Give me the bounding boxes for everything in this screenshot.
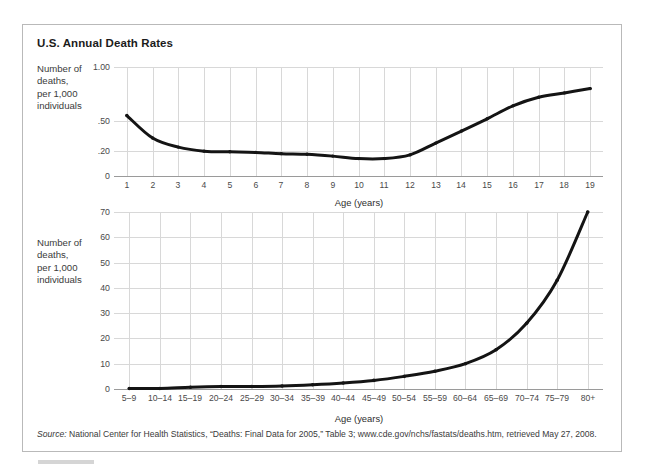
chart2-x-tick-label: 45–49 — [362, 393, 386, 403]
chart2-x-tick-label: 35–39 — [301, 393, 325, 403]
chart1-x-tick-label: 7 — [279, 180, 284, 190]
chart1-y-tick-label: 0 — [105, 171, 110, 181]
chart1-x-tick-label: 4 — [202, 180, 207, 190]
chart1-x-tick-label: 2 — [151, 180, 156, 190]
chart1-x-tick-label: 14 — [456, 180, 466, 190]
chart2-y-tick-label: 70 — [100, 207, 110, 217]
chart1-y-tick-label: .50 — [98, 116, 110, 126]
chart2-x-tick-label: 55–59 — [423, 393, 447, 403]
chart2-x-tick-label: 50–54 — [392, 393, 416, 403]
chart2-x-tick-label: 70–74 — [515, 393, 539, 403]
chart2-y-tick-label: 0 — [105, 384, 110, 394]
figure-panel: U.S. Annual Death Rates Number of deaths… — [22, 24, 622, 452]
chart1-x-tick-label: 16 — [508, 180, 518, 190]
source-body: National Center for Health Statistics, “… — [67, 429, 597, 439]
chart2-y-tick-label: 60 — [100, 232, 110, 242]
chart1-x-tick-label: 1 — [125, 180, 130, 190]
source-label: Source: — [37, 429, 67, 439]
chart1-x-axis-title: Age (years) — [259, 197, 459, 208]
chart1-x-tick-label: 3 — [176, 180, 181, 190]
chart2-y-tick-label: 20 — [100, 333, 110, 343]
chart2-y-tick-label: 30 — [100, 308, 110, 318]
chart2-x-tick-label: 80+ — [581, 393, 596, 403]
chart2-x-tick-label: 60–64 — [453, 393, 477, 403]
chart1-x-tick-label: 19 — [585, 180, 595, 190]
chart1-gridline — [114, 176, 603, 177]
chart1-x-tick-label: 11 — [380, 180, 389, 190]
chart1-x-tick-label: 17 — [534, 180, 544, 190]
chart2-x-tick-label: 5–9 — [122, 393, 136, 403]
chart2-x-tick-label: 25–29 — [240, 393, 264, 403]
chart2-x-tick-label: 30–34 — [270, 393, 294, 403]
source-note: Source: National Center for Health Stati… — [37, 429, 597, 439]
chart1-y-tick-label: .20 — [98, 146, 110, 156]
chart1-x-tick-label: 8 — [305, 180, 310, 190]
chart2-x-axis-title: Age (years) — [259, 413, 459, 424]
chart1-plot-area: 1.00.50.20012345678910111213141516171819 — [114, 67, 603, 176]
chart1-x-tick-label: 18 — [559, 180, 569, 190]
chart2-x-tick-label: 40–44 — [331, 393, 355, 403]
chart2-series-line — [114, 212, 603, 389]
chart2-y-tick-label: 40 — [100, 283, 110, 293]
chart2-gridline — [114, 389, 603, 390]
chart2-x-tick-label: 65–69 — [484, 393, 508, 403]
page-footer-mark — [38, 460, 94, 464]
chart1-x-tick-label: 5 — [228, 180, 233, 190]
chart2-x-tick-label: 10–14 — [148, 393, 172, 403]
chart2-x-tick-label: 15–19 — [178, 393, 202, 403]
chart1-x-tick-label: 10 — [354, 180, 364, 190]
chart1-x-tick-label: 9 — [331, 180, 336, 190]
chart2-x-tick-label: 20–24 — [209, 393, 233, 403]
chart1-x-tick-label: 13 — [431, 180, 441, 190]
chart2-x-tick-label: 75–79 — [545, 393, 569, 403]
page-title: U.S. Annual Death Rates — [37, 37, 173, 49]
chart1-x-tick-label: 6 — [254, 180, 259, 190]
chart1-x-tick-label: 12 — [405, 180, 415, 190]
chart1-series-line — [114, 67, 603, 176]
chart2-y-tick-label: 10 — [100, 359, 110, 369]
chart1-x-tick-label: 15 — [482, 180, 492, 190]
chart2-plot-area: 0102030405060705–910–1415–1920–2425–2930… — [114, 212, 603, 389]
chart1-y-tick-label: 1.00 — [93, 62, 110, 72]
chart2-y-tick-label: 50 — [100, 258, 110, 268]
